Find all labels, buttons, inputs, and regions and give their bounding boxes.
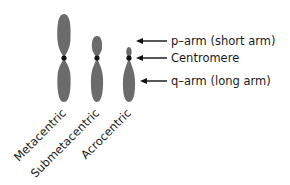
centromere-dot — [94, 55, 99, 60]
centromere-dot — [126, 55, 131, 60]
p-arm-label: p–arm (short arm) — [171, 34, 275, 48]
annotation-arrows — [136, 38, 167, 84]
q-arm-label: q–arm (long arm) — [171, 74, 271, 88]
centromere-dot — [61, 55, 66, 60]
submetacentric-chromosome — [91, 36, 103, 102]
metacentric-chromosome — [57, 14, 70, 102]
centromere-label: Centromere — [171, 51, 239, 65]
acrocentric-chromosome — [123, 47, 135, 102]
chromosome-diagram: p–arm (short arm) Centromere q–arm (long… — [0, 0, 290, 185]
